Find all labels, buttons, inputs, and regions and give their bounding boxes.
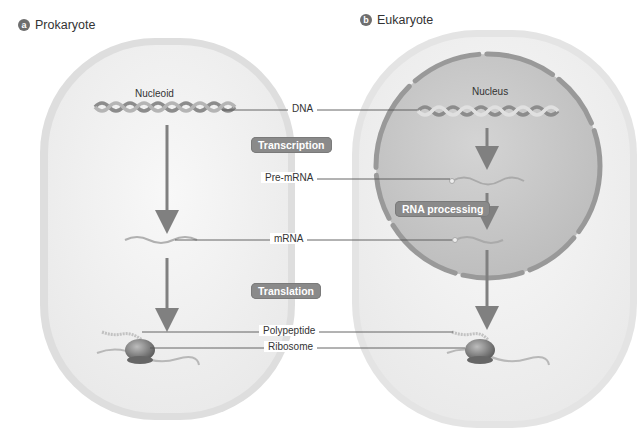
mrna-label: mRNA — [270, 233, 307, 244]
pre-mrna-label: Pre-mRNA — [261, 172, 317, 183]
transcription-step: Transcription — [251, 137, 332, 153]
nucleus-label: Nucleus — [472, 86, 508, 97]
translation-step: Translation — [251, 283, 321, 299]
rna-processing-step: RNA processing — [395, 201, 490, 217]
nucleoid-label: Nucleoid — [135, 88, 174, 99]
diagram-canvas — [0, 0, 642, 438]
dna-label: DNA — [288, 103, 317, 114]
ribosome-label: Ribosome — [264, 341, 317, 352]
polypeptide-label: Polypeptide — [259, 325, 319, 336]
